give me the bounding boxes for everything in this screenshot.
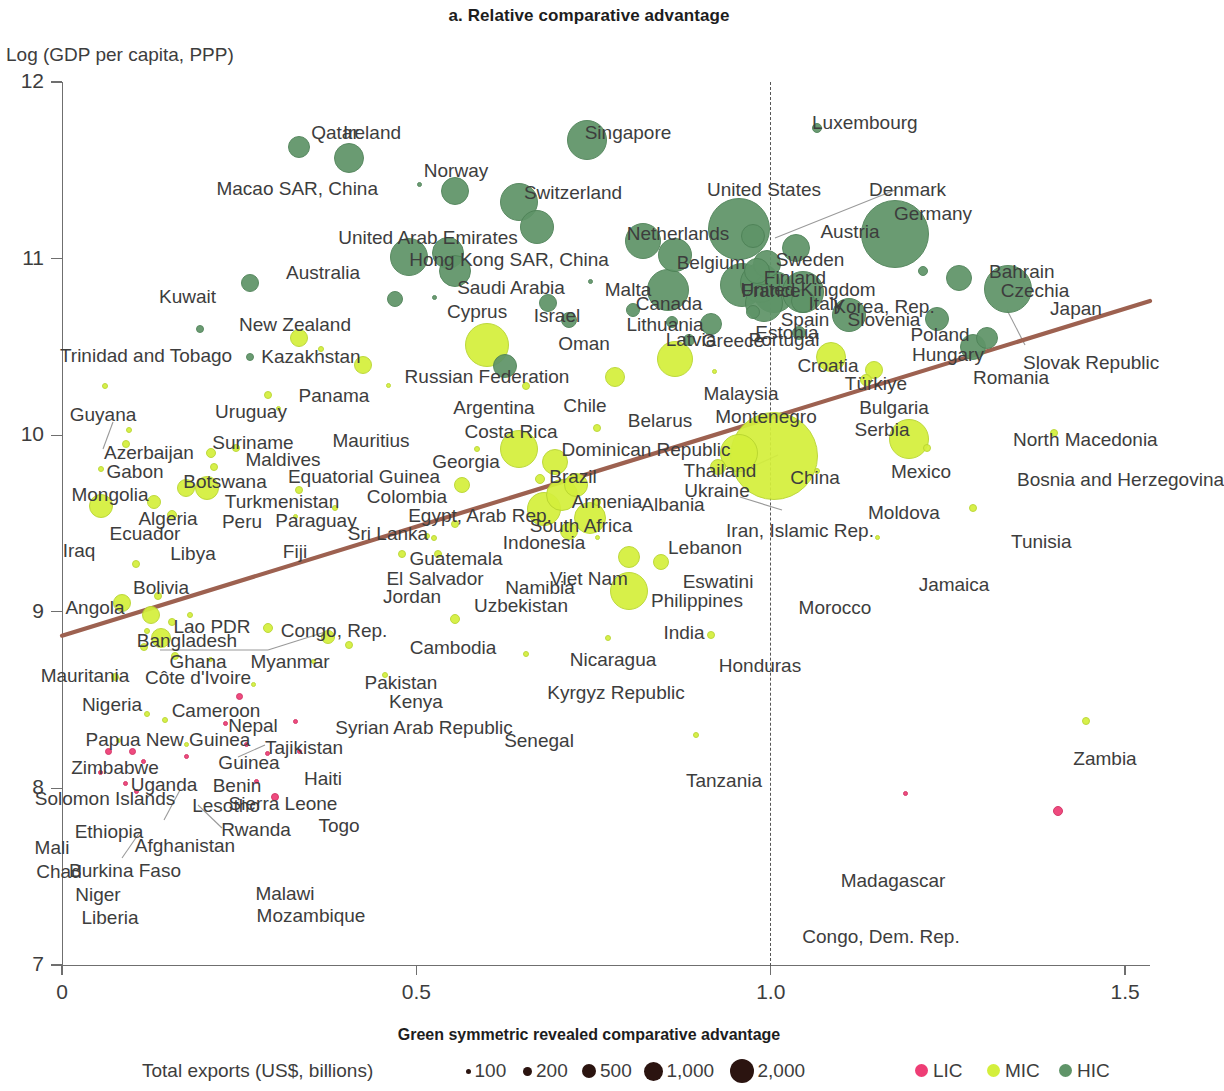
data-point-bubble[interactable] xyxy=(432,295,437,300)
data-point-bubble[interactable] xyxy=(184,754,189,759)
data-point-label: Cambodia xyxy=(410,638,497,657)
data-point-label: Bosnia and Herzegovina xyxy=(1017,470,1224,489)
data-point-label: Costa Rica xyxy=(465,422,558,441)
data-point-label: Paraguay xyxy=(275,511,356,530)
chart-legend: Total exports (US$, billions)1002005001,… xyxy=(0,1058,1178,1091)
data-point-label: Bulgaria xyxy=(859,398,929,417)
legend-size-dot xyxy=(582,1064,596,1078)
data-point-label: Ireland xyxy=(343,123,401,142)
data-point-bubble[interactable] xyxy=(263,623,273,633)
legend-size-label: 500 xyxy=(600,1060,632,1082)
data-point-bubble[interactable] xyxy=(223,721,228,726)
data-point-label: Tunisia xyxy=(1011,532,1072,551)
data-point-bubble[interactable] xyxy=(264,391,272,399)
data-point-label: Oman xyxy=(558,334,610,353)
data-point-label: Guinea xyxy=(218,753,279,772)
data-point-label: Chile xyxy=(563,396,606,415)
data-point-label: Uzbekistan xyxy=(474,596,568,615)
data-point-bubble[interactable] xyxy=(142,606,160,624)
data-point-bubble[interactable] xyxy=(875,535,880,540)
data-point-label: Greece xyxy=(702,331,764,350)
data-point-label: Botswana xyxy=(183,472,266,491)
data-point-label: Bolivia xyxy=(133,578,189,597)
data-point-label: Fiji xyxy=(283,542,307,561)
data-point-label: Mauritania xyxy=(41,666,130,685)
data-point-label: Saudi Arabia xyxy=(457,278,565,297)
data-point-bubble[interactable] xyxy=(923,444,931,452)
data-point-bubble[interactable] xyxy=(946,265,972,291)
data-point-label: Iraq xyxy=(63,541,96,560)
data-point-label: Angola xyxy=(65,598,124,617)
data-point-bubble[interactable] xyxy=(741,224,765,248)
data-point-label: Afghanistan xyxy=(135,836,235,855)
legend-size-dot xyxy=(644,1062,663,1081)
data-point-label: Senegal xyxy=(504,731,574,750)
legend-category-label: MIC xyxy=(1005,1060,1040,1082)
data-point-label: Côte d'Ivoire xyxy=(145,668,251,687)
data-point-label: Austria xyxy=(820,222,879,241)
data-point-label: Peru xyxy=(222,512,262,531)
data-point-bubble[interactable] xyxy=(162,717,168,723)
data-point-label: Equatorial Guinea xyxy=(288,467,440,486)
data-point-label: Liberia xyxy=(81,908,138,927)
data-point-label: Argentina xyxy=(453,398,534,417)
data-point-bubble[interactable] xyxy=(618,546,640,568)
data-point-bubble[interactable] xyxy=(334,143,364,173)
legend-size-label: 2,000 xyxy=(758,1060,806,1082)
data-point-bubble[interactable] xyxy=(386,383,391,388)
data-point-label: Georgia xyxy=(432,452,500,471)
data-point-label: Sri Lanka xyxy=(348,524,428,543)
data-point-label: Togo xyxy=(318,816,359,835)
data-point-label: Belarus xyxy=(628,411,692,430)
data-point-label: Papua New Guinea xyxy=(86,730,251,749)
data-point-bubble[interactable] xyxy=(251,682,256,687)
data-point-bubble[interactable] xyxy=(969,504,977,512)
data-point-bubble[interactable] xyxy=(102,383,108,389)
data-point-bubble[interactable] xyxy=(398,550,406,558)
data-point-bubble[interactable] xyxy=(98,466,104,472)
legend-category-dot xyxy=(987,1064,1000,1077)
data-point-bubble[interactable] xyxy=(123,781,128,786)
data-point-label: Macao SAR, China xyxy=(216,179,378,198)
data-point-label: Hungary xyxy=(912,345,984,364)
data-point-label: Jamaica xyxy=(919,575,990,594)
data-point-label: Moldova xyxy=(868,503,940,522)
data-point-label: Switzerland xyxy=(524,183,622,202)
data-point-bubble[interactable] xyxy=(712,369,717,374)
data-point-label: Israel xyxy=(534,306,580,325)
data-point-label: Bangladesh xyxy=(137,631,237,650)
data-point-label: Sierra Leone xyxy=(229,794,338,813)
data-point-label: Thailand xyxy=(684,461,757,480)
data-point-label: Eswatini xyxy=(683,572,754,591)
data-point-label: Guatemala xyxy=(410,549,503,568)
data-point-bubble[interactable] xyxy=(236,693,243,700)
legend-size-label: 100 xyxy=(475,1060,507,1082)
data-point-label: Malawi xyxy=(255,884,314,903)
data-point-label: Myanmar xyxy=(250,652,329,671)
data-point-label: Romania xyxy=(973,368,1049,387)
data-point-label: Syrian Arab Republic xyxy=(335,718,512,737)
data-point-label: Uruguay xyxy=(215,402,287,421)
data-point-label: Cyprus xyxy=(447,302,507,321)
data-point-label: North Macedonia xyxy=(1013,430,1158,449)
data-point-label: Libya xyxy=(170,544,215,563)
data-point-bubble[interactable] xyxy=(431,535,437,541)
data-point-label: New Zealand xyxy=(239,315,351,334)
data-point-label: Netherlands xyxy=(627,224,729,243)
data-point-label: United Arab Emirates xyxy=(338,228,518,247)
data-point-label: Malaysia xyxy=(704,384,779,403)
data-point-bubble[interactable] xyxy=(707,631,715,639)
legend-size-label: 200 xyxy=(536,1060,568,1082)
data-point-bubble[interactable] xyxy=(588,279,593,284)
data-point-bubble[interactable] xyxy=(605,367,625,387)
legend-category-dot xyxy=(915,1064,928,1077)
data-point-label: United States xyxy=(707,180,821,199)
data-point-bubble[interactable] xyxy=(746,305,760,319)
data-point-label: Türkiye xyxy=(845,374,907,393)
legend-size-dot xyxy=(523,1067,532,1076)
legend-category-label: HIC xyxy=(1077,1060,1110,1082)
data-point-label: Armenia xyxy=(572,492,643,511)
legend-size-dot xyxy=(730,1059,754,1083)
data-point-bubble[interactable] xyxy=(520,210,554,244)
data-point-label: Guyana xyxy=(70,405,137,424)
